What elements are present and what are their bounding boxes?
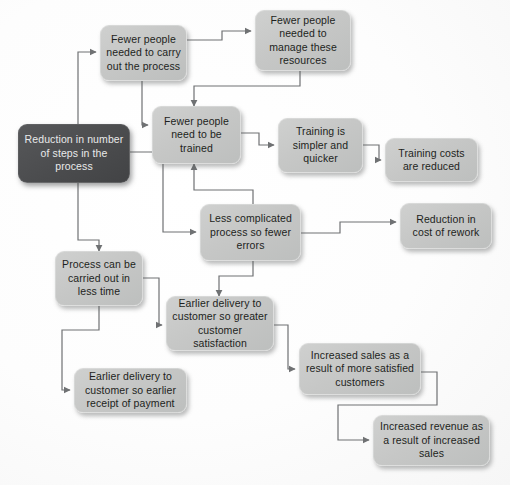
edge-fewer-carry-to-fewer-train: [142, 81, 148, 125]
edge-less-complicated-to-satisfaction: [219, 261, 253, 296]
node-earlier-payment[interactable]: Earlier delivery to customer so earlier …: [74, 368, 187, 413]
node-root-label: Reduction in number of steps in the proc…: [24, 133, 124, 173]
node-rework-label: Reduction in cost of rework: [406, 213, 486, 240]
edge-less-time-to-satisfaction: [143, 278, 162, 325]
edge-training-simpler-to-training-costs: [363, 145, 381, 160]
node-less-complicated[interactable]: Less complicated process so fewer errors: [200, 204, 301, 261]
edge-fewer-train-to-training-simpler: [241, 133, 274, 145]
node-earlier-satisfaction-label: Earlier delivery to customer so greater …: [172, 297, 268, 351]
node-less-time-label: Process can be carried out in less time: [61, 258, 137, 298]
node-fewer-train-label: Fewer people need to be trained: [158, 115, 235, 155]
flowchart-canvas: Reduction in number of steps in the proc…: [0, 0, 510, 485]
edge-root-to-less-complicated: [130, 152, 196, 232]
node-increased-revenue-label: Increased revenue as a result of increas…: [379, 420, 484, 460]
node-training-simpler-label: Training is simpler and quicker: [284, 125, 357, 165]
edge-root-to-less-time: [78, 183, 99, 251]
node-fewer-carry[interactable]: Fewer people needed to carry out the pro…: [100, 25, 187, 81]
node-increased-sales-label: Increased sales as a result of more sati…: [305, 349, 415, 389]
node-less-complicated-label: Less complicated process so fewer errors: [206, 212, 295, 252]
edge-satisfaction-to-increased-sales: [274, 325, 295, 369]
node-increased-revenue[interactable]: Increased revenue as a result of increas…: [373, 415, 490, 466]
node-less-time[interactable]: Process can be carried out in less time: [55, 251, 143, 306]
edge-less-complicated-to-fewer-train: [194, 164, 253, 204]
edge-fewer-carry-to-fewer-manage: [187, 31, 251, 40]
node-training-costs-label: Training costs are reduced: [391, 147, 472, 174]
node-training-costs[interactable]: Training costs are reduced: [385, 138, 478, 182]
node-root[interactable]: Reduction in number of steps in the proc…: [18, 124, 130, 183]
edge-less-complicated-to-rework: [301, 222, 396, 233]
node-earlier-satisfaction[interactable]: Earlier delivery to customer so greater …: [166, 296, 274, 351]
node-earlier-payment-label: Earlier delivery to customer so earlier …: [80, 370, 181, 410]
edge-fewer-manage-to-fewer-train: [194, 71, 300, 106]
node-fewer-carry-label: Fewer people needed to carry out the pro…: [106, 33, 181, 73]
node-fewer-train[interactable]: Fewer people need to be trained: [152, 106, 241, 164]
edge-root-to-fewer-carry: [78, 52, 96, 124]
node-training-simpler[interactable]: Training is simpler and quicker: [278, 118, 363, 173]
node-fewer-manage-label: Fewer people needed to manage these reso…: [261, 14, 345, 68]
node-increased-sales[interactable]: Increased sales as a result of more sati…: [299, 343, 421, 395]
node-fewer-manage[interactable]: Fewer people needed to manage these reso…: [255, 10, 351, 71]
node-rework[interactable]: Reduction in cost of rework: [400, 203, 492, 249]
